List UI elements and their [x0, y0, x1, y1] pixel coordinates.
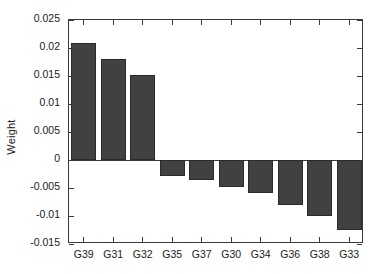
x-tick-mark-top [290, 20, 291, 25]
y-tick-label: -0.005 [0, 180, 60, 192]
x-tick-mark-top [113, 20, 114, 25]
bar [101, 59, 126, 160]
bar [307, 160, 332, 216]
x-tick-mark [83, 237, 84, 242]
x-tick-mark-top [142, 20, 143, 25]
x-tick-mark [260, 237, 261, 242]
x-tick-mark [172, 237, 173, 242]
x-tick-mark [231, 237, 232, 242]
bar [189, 160, 214, 180]
y-tick-label: -0.015 [0, 236, 60, 248]
bar [337, 160, 362, 230]
bar [248, 160, 273, 193]
bar [219, 160, 244, 187]
bar [160, 160, 185, 176]
y-tick-label: 0.01 [0, 96, 60, 108]
x-tick-mark-top [172, 20, 173, 25]
y-tick-label: 0.005 [0, 124, 60, 136]
x-tick-mark-top [319, 20, 320, 25]
y-tick-mark-right [357, 48, 362, 49]
x-tick-mark-top [349, 20, 350, 25]
bar [130, 75, 155, 160]
y-tick-mark-right [357, 76, 362, 77]
y-tick-mark [69, 216, 74, 217]
y-tick-label: 0.015 [0, 68, 60, 80]
bar [71, 43, 96, 160]
x-tick-mark [142, 237, 143, 242]
y-tick-label: 0.02 [0, 40, 60, 52]
plot-area: 0.0250.020.0150.010.0050-0.005-0.01-0.01… [68, 19, 363, 243]
x-tick-mark [290, 237, 291, 242]
x-tick-mark-top [260, 20, 261, 25]
y-tick-label: -0.01 [0, 208, 60, 220]
y-tick-mark [69, 188, 74, 189]
x-tick-mark-top [201, 20, 202, 25]
x-tick-label: G33 [327, 248, 371, 260]
x-tick-mark-top [83, 20, 84, 25]
bar [278, 160, 303, 205]
y-tick-label: 0.025 [0, 12, 60, 24]
x-tick-mark [319, 237, 320, 242]
y-tick-mark-right [357, 244, 362, 245]
x-tick-mark-top [231, 20, 232, 25]
x-tick-mark [349, 237, 350, 242]
y-tick-mark [69, 20, 74, 21]
y-tick-mark-right [357, 104, 362, 105]
y-tick-mark [69, 244, 74, 245]
x-tick-mark [201, 237, 202, 242]
x-tick-mark [113, 237, 114, 242]
y-tick-mark-right [357, 132, 362, 133]
y-tick-mark-right [357, 20, 362, 21]
bar-chart-figure: Weight 0.0250.020.0150.010.0050-0.005-0.… [0, 0, 378, 274]
y-tick-label: 0 [0, 152, 60, 164]
